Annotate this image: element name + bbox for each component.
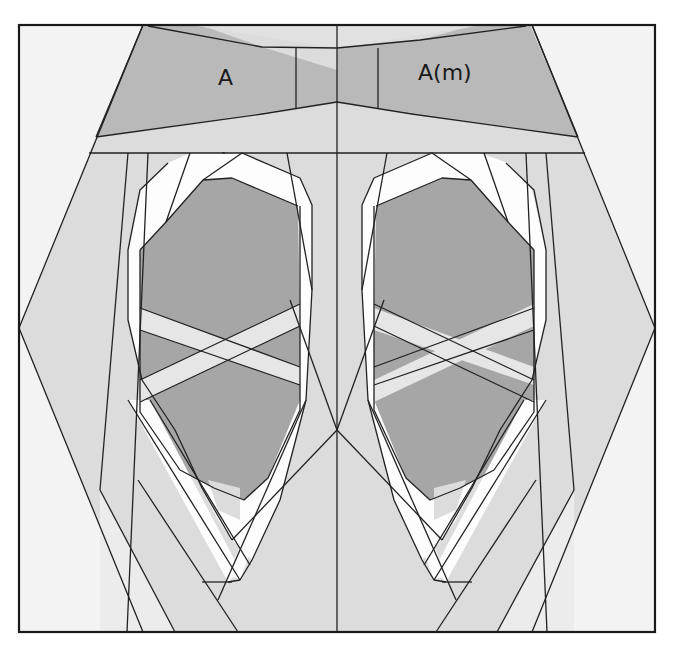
label-a: A	[218, 65, 233, 90]
quilt-pattern-diagram: A A(m)	[0, 0, 674, 650]
label-a-mirrored: A(m)	[418, 60, 472, 85]
